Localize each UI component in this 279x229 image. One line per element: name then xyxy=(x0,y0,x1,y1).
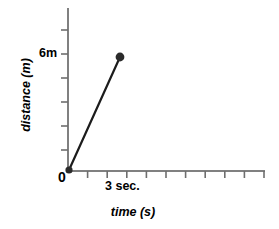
data-series-distance-vs-time xyxy=(65,53,124,174)
origin-label: 0 xyxy=(58,170,66,184)
x-axis-title: time (s) xyxy=(111,206,155,219)
y-axis-title: distance (m) xyxy=(20,58,33,132)
y-axis-ticks xyxy=(61,30,68,150)
data-point-origin xyxy=(65,166,72,173)
chart-plot-area xyxy=(0,0,279,229)
series-segment xyxy=(69,57,120,170)
distance-time-chart: 6m 0 3 sec. time (s) distance (m) xyxy=(0,0,279,229)
x-tick-label-3sec: 3 sec. xyxy=(105,180,140,193)
data-point-3sec-6m xyxy=(116,53,125,62)
x-axis-ticks xyxy=(88,171,264,178)
y-tick-label-6m: 6m xyxy=(39,47,57,60)
